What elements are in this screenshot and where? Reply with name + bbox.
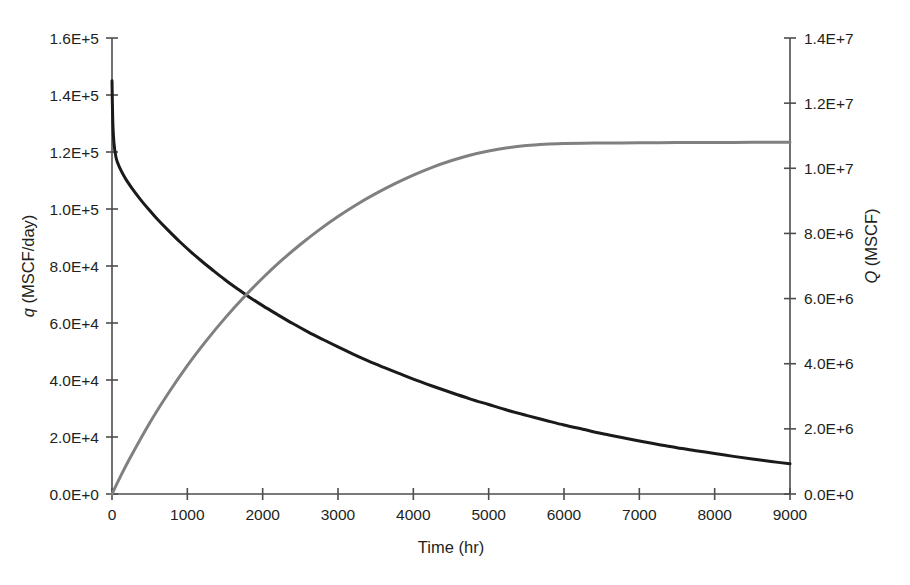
x-axis-tick-label: 1000 — [170, 506, 205, 523]
y-axis-right-tick-label: 1.4E+7 — [804, 30, 854, 47]
x-axis-tick-label: 7000 — [622, 506, 657, 523]
y-axis-left-tick-label: 6.0E+4 — [49, 315, 99, 332]
axes-group — [112, 38, 790, 494]
y-axis-left-tick-label: 8.0E+4 — [49, 258, 99, 275]
x-axis-tick-label: 3000 — [321, 506, 356, 523]
y-axis-right-title: Q (MSCF) — [862, 208, 880, 283]
y-axis-left-tick-label: 1.2E+5 — [49, 144, 99, 161]
chart-canvas: 0.0E+02.0E+44.0E+46.0E+48.0E+41.0E+51.2E… — [0, 0, 910, 585]
y-axis-left-tick-label: 1.4E+5 — [49, 87, 99, 104]
y-axis-left-title: q (MSCF/day) — [19, 215, 37, 318]
y-axis-left-tick-label: 1.6E+5 — [49, 30, 99, 47]
tick-labels-group: 0.0E+02.0E+44.0E+46.0E+48.0E+41.0E+51.2E… — [49, 30, 853, 524]
y-axis-right-tick-label: 1.0E+7 — [804, 160, 854, 177]
y-axis-left-tick-label: 1.0E+5 — [49, 201, 99, 218]
x-axis-tick-label: 0 — [108, 506, 117, 523]
x-axis-tick-label: 5000 — [471, 506, 506, 523]
x-axis-tick-label: 9000 — [773, 506, 808, 523]
x-axis-tick-label: 4000 — [396, 506, 431, 523]
series-line-cumulative — [112, 142, 790, 494]
x-axis-tick-label: 6000 — [547, 506, 582, 523]
x-axis-title: Time (hr) — [418, 538, 484, 556]
chart-figure: 0.0E+02.0E+44.0E+46.0E+48.0E+41.0E+51.2E… — [0, 0, 910, 585]
y-axis-right-tick-label: 2.0E+6 — [804, 420, 854, 437]
series-line-rate — [112, 81, 790, 464]
y-axis-right-tick-label: 0.0E+0 — [804, 486, 854, 503]
y-axis-right-tick-label: 4.0E+6 — [804, 355, 854, 372]
x-axis-tick-label: 2000 — [245, 506, 280, 523]
y-axis-left-tick-label: 2.0E+4 — [49, 429, 99, 446]
x-axis-tick-label: 8000 — [697, 506, 732, 523]
y-axis-right-tick-label: 1.2E+7 — [804, 95, 854, 112]
axis-titles-group: Time (hr)q (MSCF/day)Q (MSCF) — [19, 208, 880, 556]
y-axis-right-tick-label: 6.0E+6 — [804, 290, 854, 307]
y-axis-left-tick-label: 0.0E+0 — [49, 486, 99, 503]
y-axis-right-tick-label: 8.0E+6 — [804, 225, 854, 242]
data-series-group — [112, 81, 790, 494]
y-axis-left-tick-label: 4.0E+4 — [49, 372, 99, 389]
